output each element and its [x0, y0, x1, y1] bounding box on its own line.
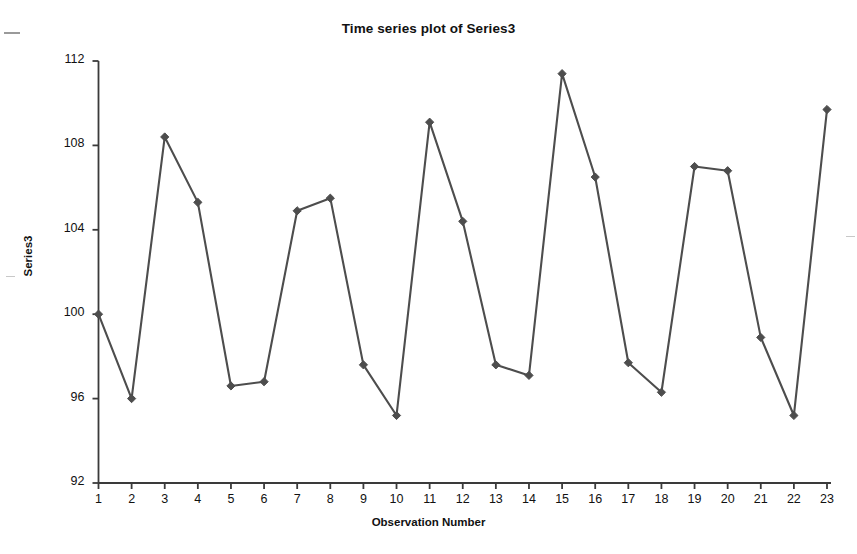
- x-tick-label: 22: [781, 492, 807, 506]
- x-tick-label: 17: [615, 492, 641, 506]
- x-tick-label: 16: [582, 492, 608, 506]
- x-tick-label: 9: [350, 492, 376, 506]
- x-tick-label: 6: [251, 492, 277, 506]
- x-tick-label: 13: [483, 492, 509, 506]
- data-point-marker: [591, 173, 599, 181]
- data-point-marker: [823, 105, 831, 113]
- data-point-marker: [690, 162, 698, 170]
- x-tick-label: 4: [185, 492, 211, 506]
- data-point-marker: [94, 310, 102, 318]
- data-point-marker: [492, 361, 500, 369]
- data-point-marker: [326, 194, 334, 202]
- x-tick-label: 8: [317, 492, 343, 506]
- data-point-marker: [293, 207, 301, 215]
- x-tick-label: 11: [417, 492, 443, 506]
- plot-area: [0, 0, 857, 554]
- data-point-marker: [790, 411, 798, 419]
- axis-layer: [93, 61, 832, 489]
- y-tick-label: 92: [41, 474, 85, 488]
- y-tick-label: 112: [41, 52, 85, 66]
- x-tick-label: 18: [648, 492, 674, 506]
- x-tick-label: 5: [218, 492, 244, 506]
- y-tick-label: 96: [41, 390, 85, 404]
- x-tick-label: 23: [814, 492, 840, 506]
- y-tick-label: 104: [41, 221, 85, 235]
- x-tick-label: 3: [152, 492, 178, 506]
- data-point-marker: [459, 217, 467, 225]
- x-tick-label: 19: [682, 492, 708, 506]
- data-point-marker: [525, 371, 533, 379]
- x-tick-label: 15: [549, 492, 575, 506]
- data-point-marker: [227, 382, 235, 390]
- x-tick-label: 10: [384, 492, 410, 506]
- x-tick-label: 7: [284, 492, 310, 506]
- x-tick-label: 21: [748, 492, 774, 506]
- data-point-marker: [161, 133, 169, 141]
- x-tick-label: 2: [119, 492, 145, 506]
- x-tick-label: 14: [516, 492, 542, 506]
- series-layer: [94, 70, 831, 420]
- time-series-figure: Time series plot of Series3 Series3 Obse…: [0, 0, 857, 554]
- series-line-series3: [99, 74, 828, 416]
- x-tick-label: 1: [86, 492, 112, 506]
- data-point-marker: [558, 70, 566, 78]
- x-tick-label: 12: [450, 492, 476, 506]
- data-point-marker: [757, 333, 765, 341]
- y-tick-label: 108: [41, 136, 85, 150]
- data-point-marker: [426, 118, 434, 126]
- y-tick-label: 100: [41, 305, 85, 319]
- data-point-marker: [260, 378, 268, 386]
- data-point-marker: [724, 167, 732, 175]
- x-tick-label: 20: [715, 492, 741, 506]
- data-point-marker: [128, 395, 136, 403]
- data-point-marker: [194, 198, 202, 206]
